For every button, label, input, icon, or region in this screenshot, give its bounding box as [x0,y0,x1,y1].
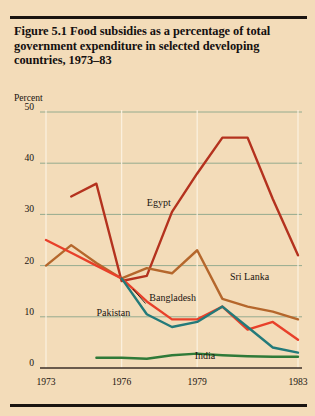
series-label-india: India [195,350,216,361]
bottom-rule [10,404,307,407]
series-lines-group [46,138,298,359]
series-label-egypt: Egypt [147,197,171,208]
series-label-bangladesh: Bangladesh [149,292,196,303]
figure-panel: Figure 5.1 Food subsidies as a percentag… [0,0,315,416]
series-line-bangladesh [122,278,298,352]
y-tick-label-10: 10 [8,306,34,317]
y-tick-label-40: 40 [8,152,34,163]
figure-title: Figure 5.1 Food subsidies as a percentag… [14,24,303,68]
y-tick-label-50: 50 [8,101,34,112]
series-label-sri-lanka: Sri Lanka [230,271,269,282]
x-tick-label-1979: 1979 [177,376,217,387]
x-tick-label-1973: 1973 [26,376,66,387]
top-rule [10,16,307,19]
series-label-pakistan: Pakistan [96,307,130,318]
series-line-egypt [71,138,298,281]
line-chart-svg [40,110,302,370]
y-tick-label-20: 20 [8,255,34,266]
y-tick-label-30: 30 [8,203,34,214]
x-tick-label-1983: 1983 [278,376,315,387]
y-tick-label-0: 0 [8,357,34,368]
vertical-gridlines-group [46,110,298,368]
x-tick-label-1976: 1976 [102,376,142,387]
chart-plot-area [40,110,302,370]
